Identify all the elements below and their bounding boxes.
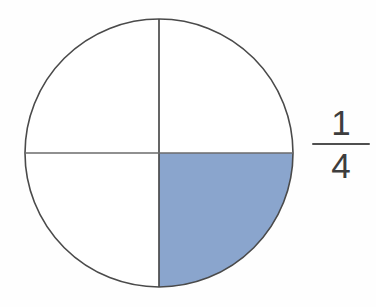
figure-canvas: 1 4 xyxy=(0,0,376,307)
fraction-bar xyxy=(312,143,370,145)
fraction-label: 1 4 xyxy=(310,104,372,185)
shaded-quadrant-bottom-right xyxy=(159,153,293,287)
fraction-denominator: 4 xyxy=(331,147,350,185)
fraction-numerator: 1 xyxy=(331,104,350,142)
